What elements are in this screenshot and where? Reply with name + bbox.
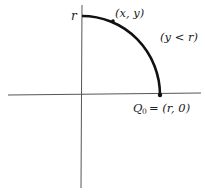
y-axis xyxy=(81,5,82,188)
diagram-canvas: r (x, y) (y < r) Q 0 = (r, 0) xyxy=(0,0,205,196)
label-q0-subscript: 0 xyxy=(142,107,147,116)
label-xy: (x, y) xyxy=(115,6,144,20)
point-q0 xyxy=(158,93,162,97)
label-condition: (y < r) xyxy=(160,30,198,44)
label-q0-coords: = (r, 0) xyxy=(149,101,190,115)
label-r: r xyxy=(71,9,78,23)
x-axis xyxy=(8,93,201,95)
quarter-circle-arc xyxy=(82,16,160,95)
